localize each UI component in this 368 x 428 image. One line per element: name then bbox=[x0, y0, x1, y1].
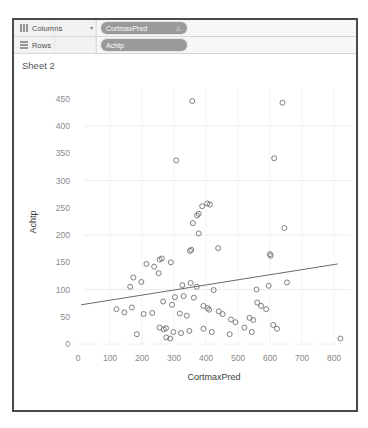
data-point[interactable] bbox=[184, 313, 189, 318]
data-point[interactable] bbox=[172, 295, 177, 300]
x-axis-ticks: 0100200300400500600700800 bbox=[76, 353, 342, 363]
rows-shelf[interactable]: Rows Achtp bbox=[14, 37, 356, 54]
data-point[interactable] bbox=[129, 305, 134, 310]
screenshot-root: Columns ▾ CortmaxPred △ Rows bbox=[0, 0, 368, 428]
rows-shelf-label-wrap: Rows bbox=[14, 41, 86, 50]
y-tick-label: 350 bbox=[56, 148, 70, 158]
x-tick-label: 400 bbox=[199, 353, 213, 363]
sheet-title-bar: Sheet 2 bbox=[14, 54, 356, 76]
scatter-plot-svg: 050100150200250300350400450 010020030040… bbox=[14, 76, 356, 410]
data-point[interactable] bbox=[150, 310, 155, 315]
data-point[interactable] bbox=[188, 248, 193, 253]
scatter-plot[interactable]: 050100150200250300350400450 010020030040… bbox=[14, 76, 356, 410]
data-point[interactable] bbox=[275, 326, 280, 331]
columns-shelf-label-wrap: Columns bbox=[14, 24, 86, 33]
data-point[interactable] bbox=[227, 332, 232, 337]
data-point[interactable] bbox=[131, 275, 136, 280]
data-point[interactable] bbox=[280, 100, 285, 105]
pill-achtp-label: Achtp bbox=[106, 42, 124, 49]
data-point[interactable] bbox=[209, 330, 214, 335]
y-tick-label: 150 bbox=[56, 257, 70, 267]
data-point[interactable] bbox=[220, 312, 225, 317]
rows-shelf-label: Rows bbox=[32, 41, 51, 50]
y-tick-label: 300 bbox=[56, 176, 70, 186]
y-tick-label: 0 bbox=[65, 339, 70, 349]
data-point[interactable] bbox=[233, 320, 238, 325]
x-tick-label: 300 bbox=[167, 353, 181, 363]
data-point[interactable] bbox=[216, 246, 221, 251]
y-tick-label: 200 bbox=[56, 230, 70, 240]
y-tick-label: 250 bbox=[56, 203, 70, 213]
columns-shelf[interactable]: Columns ▾ CortmaxPred △ bbox=[14, 20, 356, 37]
data-point[interactable] bbox=[272, 156, 277, 161]
viz-scrollbar[interactable] bbox=[351, 76, 355, 410]
pill-achtp[interactable]: Achtp bbox=[101, 39, 187, 51]
data-point[interactable] bbox=[201, 326, 206, 331]
trend-line-segment bbox=[81, 264, 338, 305]
data-point[interactable] bbox=[128, 284, 133, 289]
data-point[interactable] bbox=[134, 332, 139, 337]
data-point[interactable] bbox=[114, 307, 119, 312]
x-axis-title: CortmaxPred bbox=[187, 372, 240, 382]
columns-icon bbox=[20, 24, 28, 32]
x-tick-label: 100 bbox=[103, 353, 117, 363]
y-axis-title: Achtp bbox=[28, 210, 38, 233]
page-title: Sheet 2 bbox=[22, 60, 55, 71]
y-tick-label: 50 bbox=[61, 312, 71, 322]
y-tick-label: 450 bbox=[56, 94, 70, 104]
y-tick-label: 400 bbox=[56, 121, 70, 131]
data-point[interactable] bbox=[242, 325, 247, 330]
worksheet-window: Columns ▾ CortmaxPred △ Rows bbox=[12, 18, 358, 412]
data-point[interactable] bbox=[181, 294, 186, 299]
y-tick-label: 100 bbox=[56, 285, 70, 295]
data-point[interactable] bbox=[179, 331, 184, 336]
pill-cortmaxpred[interactable]: CortmaxPred △ bbox=[101, 22, 187, 34]
y-axis-ticks: 050100150200250300350400450 bbox=[56, 94, 70, 349]
x-tick-label: 600 bbox=[263, 353, 277, 363]
data-point[interactable] bbox=[177, 311, 182, 316]
data-point[interactable] bbox=[168, 260, 173, 265]
data-point[interactable] bbox=[251, 318, 256, 323]
rows-icon bbox=[20, 41, 28, 49]
data-point[interactable] bbox=[188, 280, 193, 285]
data-point[interactable] bbox=[156, 271, 161, 276]
columns-shelf-caret-icon[interactable]: ▾ bbox=[86, 25, 96, 31]
pill-cortmaxpred-label: CortmaxPred bbox=[106, 25, 147, 32]
data-point[interactable] bbox=[264, 307, 269, 312]
data-point[interactable] bbox=[161, 299, 166, 304]
data-point[interactable] bbox=[259, 303, 264, 308]
data-point[interactable] bbox=[152, 264, 157, 269]
columns-shelf-dropzone[interactable]: CortmaxPred △ bbox=[96, 20, 356, 36]
x-tick-label: 200 bbox=[135, 353, 149, 363]
x-tick-label: 700 bbox=[295, 353, 309, 363]
trend-line bbox=[81, 264, 338, 305]
gridlines bbox=[74, 88, 350, 344]
data-point[interactable] bbox=[144, 261, 149, 266]
data-point[interactable] bbox=[122, 310, 127, 315]
data-point[interactable] bbox=[139, 279, 144, 284]
data-point[interactable] bbox=[180, 283, 185, 288]
data-point[interactable] bbox=[282, 225, 287, 230]
data-point[interactable] bbox=[190, 99, 195, 104]
data-point[interactable] bbox=[200, 204, 205, 209]
data-point[interactable] bbox=[249, 330, 254, 335]
x-tick-label: 0 bbox=[76, 353, 81, 363]
data-point[interactable] bbox=[191, 295, 196, 300]
data-points[interactable] bbox=[114, 99, 343, 341]
data-point[interactable] bbox=[284, 280, 289, 285]
data-point[interactable] bbox=[171, 330, 176, 335]
data-point[interactable] bbox=[187, 328, 192, 333]
data-point[interactable] bbox=[338, 336, 343, 341]
sort-ascending-icon[interactable]: △ bbox=[176, 25, 181, 31]
x-tick-label: 500 bbox=[231, 353, 245, 363]
data-point[interactable] bbox=[190, 221, 195, 226]
data-point[interactable] bbox=[211, 288, 216, 293]
x-tick-label: 800 bbox=[327, 353, 341, 363]
rows-shelf-dropzone[interactable]: Achtp bbox=[96, 37, 356, 53]
columns-shelf-label: Columns bbox=[32, 24, 62, 33]
